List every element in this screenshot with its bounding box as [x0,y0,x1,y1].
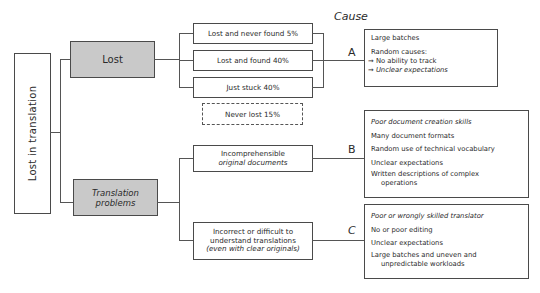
connector-to-b [312,158,365,159]
node-label-line: Translation [92,188,139,198]
node-label-line: (even with clear originals) [206,245,300,254]
node-lost: Lost [70,41,155,78]
connector-translation-spine [179,158,180,241]
cause-b-item: operations [371,179,522,188]
cause-b-item: Poor document creation skills [371,116,522,130]
node-label: Lost and never found 5% [208,29,298,38]
node-lost-label: Lost [102,54,123,65]
cause-letter-a: A [348,46,356,59]
node-label: Lost and found 40% [217,56,289,65]
node-just-stuck: Just stuck 40% [193,77,313,98]
cause-c-item: Unclear expectations [371,237,522,251]
subitem-label: No ability to track [376,57,437,65]
node-translation-problems: Translation problems [73,179,158,216]
item-continuation: unpredictable workloads [371,260,522,269]
cause-b-item: Random use of technical vocabulary [371,143,522,157]
root-node: Lost in translation [14,53,51,214]
cause-b-item: Many document formats [371,130,522,144]
root-label: Lost in translation [27,86,38,182]
cause-box-b: Poor document creation skills Many docum… [364,110,529,198]
connector-root-spine [60,59,61,203]
item-continuation: operations [371,179,522,188]
node-label-line: problems [96,198,136,208]
connector-trans-1 [179,158,193,159]
node-label: Just stuck 40% [226,83,279,92]
cause-c-item: No or poor editing [371,224,522,238]
cause-b-item: Unclear expectations [371,157,522,171]
node-lost-and-found: Lost and found 40% [193,50,313,71]
node-label-line: original documents [218,159,287,168]
connector-to-a [312,60,365,61]
cause-box-c: Poor or wrongly skilled translator No or… [364,204,529,279]
cause-a-subitem: → No ability to track [368,57,491,66]
connector-trans-2 [179,240,193,241]
node-lost-never-found: Lost and never found 5% [193,23,313,44]
subitem-label: Unclear expectations [376,66,448,74]
connector-translation [60,202,74,203]
cause-letter-c: C [348,224,356,237]
cause-c-item: Large batches and uneven and [371,251,522,260]
cause-heading: Cause [334,10,368,23]
cause-c-item: Poor or wrongly skilled translator [371,210,522,224]
connector-translation-out [157,202,180,203]
connector-lost-1 [179,33,193,34]
cause-b-item: Written descriptions of complex [371,170,522,179]
cause-c-item: unpredictable workloads [371,260,522,269]
arrow-right-icon: → [368,57,374,65]
cause-a-item: Random causes: [371,48,491,58]
node-incorrect-translations: Incorrect or difficult to understand tra… [193,222,313,260]
cause-a-subitem: → Unclear expectations [368,66,491,75]
node-incomprehensible: Incomprehensible original documents [193,145,313,172]
cause-letter-b: B [348,143,356,156]
connector-lost-3 [179,87,193,88]
connector-to-c [312,240,365,241]
node-never-lost: Never lost 15% [202,103,303,125]
connector-lost-2 [179,60,193,61]
connector-lost-out [154,59,180,60]
cause-a-item: Large batches [371,34,491,44]
node-label: Never lost 15% [225,110,280,119]
cause-box-a: Large batches Random causes: → No abilit… [364,29,498,87]
arrow-right-icon: → [368,66,374,74]
